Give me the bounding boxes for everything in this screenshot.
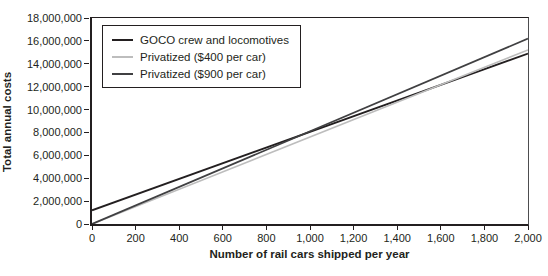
x-tick-mark [179, 226, 180, 230]
plot-area: GOCO crew and locomotivesPrivatized ($40… [90, 17, 529, 226]
x-axis-title: Number of rail cars shipped per year [90, 248, 529, 260]
y-tick-label: 16,000,000 [10, 35, 82, 47]
x-tick-mark [222, 226, 223, 230]
x-tick-label: 0 [89, 232, 95, 244]
legend-item-privatized-400: Privatized ($400 per car) [112, 48, 289, 65]
y-tick-mark [84, 86, 89, 87]
legend-line-swatch [112, 73, 133, 75]
legend-label: Privatized ($900 per car) [140, 67, 266, 81]
x-tick-mark [92, 226, 93, 230]
y-tick-label: 8,000,000 [10, 126, 82, 138]
y-tick-label: 18,000,000 [10, 12, 82, 24]
y-tick-mark [84, 109, 89, 110]
x-tick-label: 200 [126, 232, 144, 244]
legend-item-privatized-900: Privatized ($900 per car) [112, 65, 289, 82]
y-tick-label: 2,000,000 [10, 195, 82, 207]
x-tick-label: 1,400 [383, 232, 411, 244]
x-tick-label: 1,800 [471, 232, 499, 244]
x-tick-mark [484, 226, 485, 230]
x-tick-mark [528, 226, 529, 230]
y-axis-title: Total annual costs [1, 61, 15, 183]
y-tick-label: 12,000,000 [10, 81, 82, 93]
y-tick-label: 4,000,000 [10, 172, 82, 184]
legend-line-swatch [112, 39, 133, 41]
legend: GOCO crew and locomotivesPrivatized ($40… [102, 25, 301, 88]
x-tick-label: 1,600 [427, 232, 455, 244]
x-tick-mark [135, 226, 136, 230]
legend-item-goco: GOCO crew and locomotives [112, 31, 289, 48]
x-tick-mark [266, 226, 267, 230]
x-tick-mark [397, 226, 398, 230]
x-tick-mark [440, 226, 441, 230]
x-tick-mark [353, 226, 354, 230]
legend-label: GOCO crew and locomotives [140, 33, 289, 47]
y-tick-label: 6,000,000 [10, 149, 82, 161]
y-tick-label: 10,000,000 [10, 104, 82, 116]
y-tick-mark [84, 18, 89, 19]
y-tick-mark [84, 63, 89, 64]
y-tick-mark [84, 224, 89, 225]
x-tick-label: 400 [170, 232, 188, 244]
y-tick-label: 0 [10, 218, 82, 230]
line-chart: Total annual costs GOCO crew and locomot… [0, 0, 548, 276]
legend-line-swatch [112, 56, 133, 58]
x-tick-label: 1,200 [340, 232, 368, 244]
y-tick-mark [84, 201, 89, 202]
legend-label: Privatized ($400 per car) [140, 50, 266, 64]
x-tick-label: 2,000 [514, 232, 542, 244]
y-tick-mark [84, 132, 89, 133]
x-tick-label: 1,000 [296, 232, 324, 244]
y-tick-mark [84, 155, 89, 156]
x-tick-label: 600 [214, 232, 232, 244]
y-tick-mark [84, 40, 89, 41]
x-tick-mark [310, 226, 311, 230]
y-tick-label: 14,000,000 [10, 58, 82, 70]
x-tick-label: 800 [257, 232, 275, 244]
y-tick-mark [84, 178, 89, 179]
